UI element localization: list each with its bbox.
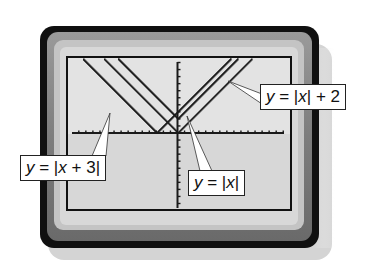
label-y-abs-x-plus-2: y = |x| + 2 <box>260 84 346 110</box>
label-y-abs-x-plus-3: y = |x + 3| <box>20 155 106 181</box>
calculator-screen <box>0 0 372 268</box>
calculator-graph-figure: y = |x + 3| y = |x| y = |x| + 2 <box>0 0 372 268</box>
label-y-abs-x: y = |x| <box>188 170 245 196</box>
